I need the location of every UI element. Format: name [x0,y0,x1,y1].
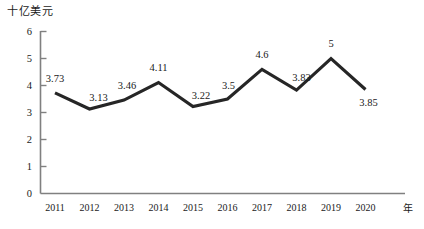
y-axis-label-5: 5 [14,53,32,64]
y-axis-label-6: 6 [14,26,32,37]
y-axis-label-3: 3 [14,107,32,118]
x-axis-label-2020: 2020 [346,202,386,214]
x-axis-unit-label: 年 [403,203,413,215]
data-label-2012: 3.13 [77,92,121,104]
y-axis-label-2: 2 [14,134,32,145]
y-axis-ticks [41,32,47,167]
y-axis-label-0: 0 [14,188,32,199]
chart-canvas [0,0,424,229]
axes-group [41,31,406,194]
data-label-2018: 3.83 [280,72,324,84]
data-label-2019: 5 [309,38,353,50]
line-chart: 十亿美元 6 5 4 3 2 1 0 201120122013201420152… [0,0,424,229]
data-label-2016: 3.5 [207,80,251,92]
data-label-2011: 3.73 [33,73,77,85]
data-label-2013: 3.46 [105,80,149,92]
data-label-2014: 4.11 [137,62,181,74]
y-axis-label-4: 4 [14,80,32,91]
y-axis-label-1: 1 [14,161,32,172]
data-label-2020: 3.85 [347,97,391,109]
data-label-2017: 4.6 [240,49,284,61]
